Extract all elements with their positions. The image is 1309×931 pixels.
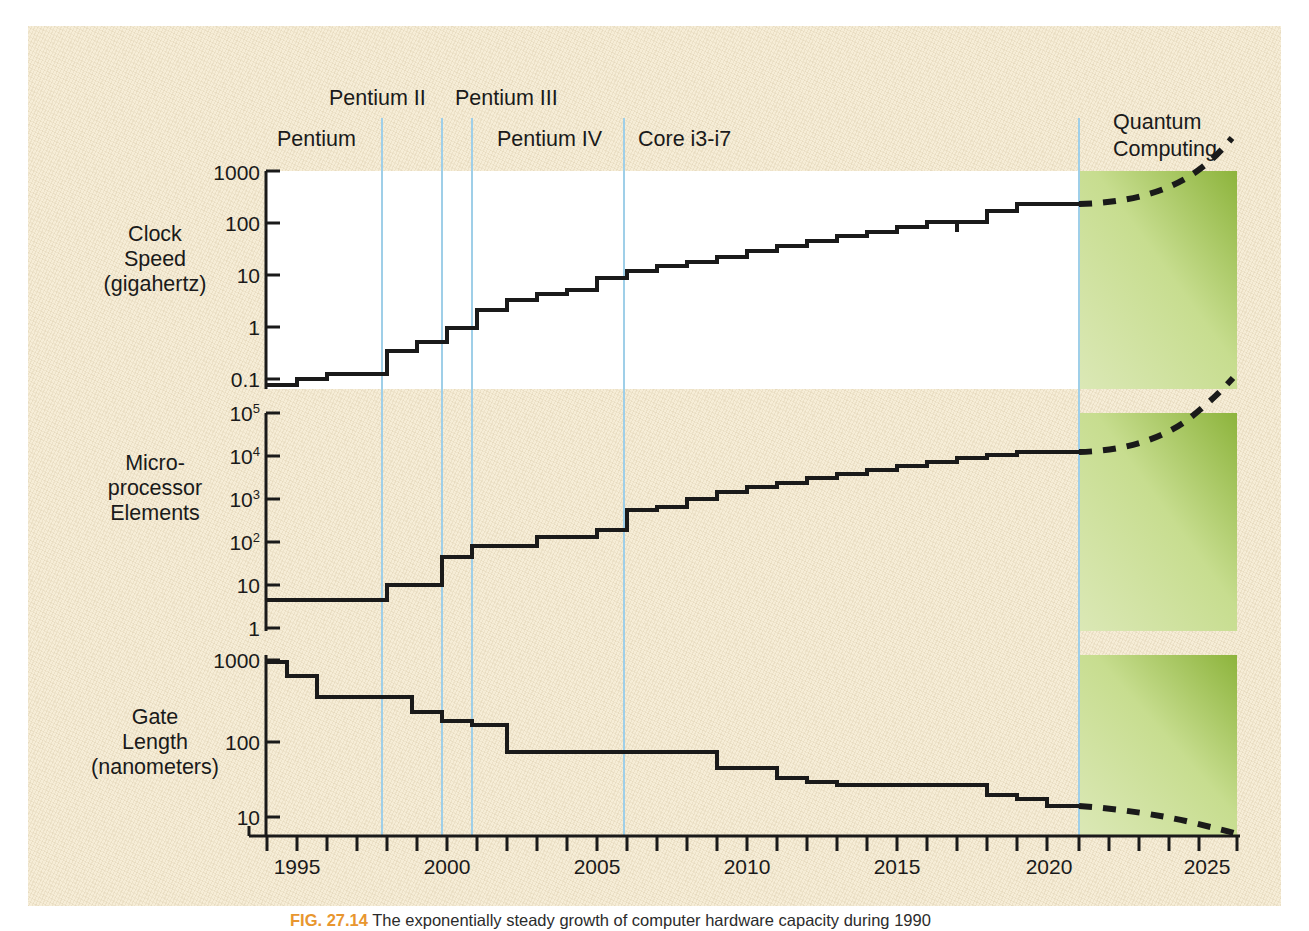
ytick-micro-10e2: 102 bbox=[180, 532, 260, 553]
series-clock-speed bbox=[267, 204, 1079, 385]
series-microprocessor-elements bbox=[267, 452, 1079, 600]
figure-caption-text: The exponentially steady growth of compu… bbox=[372, 911, 931, 929]
axis-gate-length bbox=[266, 655, 280, 835]
xtick-2010: 2010 bbox=[717, 855, 777, 879]
ytick-micro-10e5: 105 bbox=[180, 403, 260, 424]
quantum-zone-gate-length bbox=[1079, 655, 1237, 835]
gate-line-3: (nanometers) bbox=[91, 755, 219, 779]
ytick-gate-1000: 1000 bbox=[180, 650, 260, 671]
series-gate-length bbox=[267, 662, 1079, 806]
xtick-2000: 2000 bbox=[417, 855, 477, 879]
xtick-2005: 2005 bbox=[567, 855, 627, 879]
series-label-microprocessor-elements: Micro- processor Elements bbox=[70, 451, 240, 526]
figure-caption: FIG. 27.14 The exponentially steady grow… bbox=[290, 911, 1270, 930]
ytick-micro-1: 1 bbox=[180, 618, 260, 639]
xtick-2025: 2025 bbox=[1177, 855, 1237, 879]
figure-number: FIG. 27.14 bbox=[290, 911, 368, 929]
gate-line-1: Gate bbox=[132, 705, 179, 729]
micro-line-2: processor bbox=[108, 476, 202, 500]
xtick-1995: 1995 bbox=[267, 855, 327, 879]
axis-clock-speed bbox=[266, 171, 280, 389]
ytick-micro-10: 10 bbox=[180, 575, 260, 596]
series-label-gate-length: Gate Length (nanometers) bbox=[65, 705, 245, 780]
micro-line-3: Elements bbox=[110, 501, 200, 525]
gate-line-2: Length bbox=[122, 730, 188, 754]
era-divider-lines bbox=[382, 118, 1079, 835]
quantum-zone-microprocessor bbox=[1079, 413, 1237, 631]
xtick-2015: 2015 bbox=[867, 855, 927, 879]
ytick-gate-10: 10 bbox=[180, 807, 260, 828]
figure-container: Pentium II Pentium III Quantum Computing… bbox=[0, 0, 1309, 931]
micro-line-1: Micro- bbox=[125, 451, 185, 475]
xtick-2020: 2020 bbox=[1019, 855, 1079, 879]
quantum-zone-clock-speed bbox=[1079, 171, 1237, 389]
